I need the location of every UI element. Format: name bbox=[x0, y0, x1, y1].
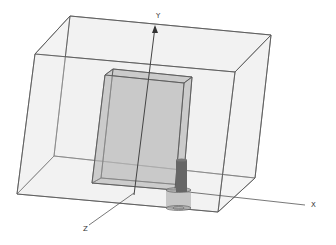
pin-top-cap bbox=[176, 159, 187, 162]
inner-box-front-face bbox=[92, 75, 184, 190]
3d-scene: X Y Z bbox=[0, 0, 336, 245]
x-axis-label: X bbox=[311, 201, 316, 209]
z-axis-label: Z bbox=[83, 225, 88, 233]
feed-pin bbox=[176, 159, 187, 193]
3d-model-viewport[interactable]: X Y Z bbox=[0, 0, 336, 245]
y-axis-label: Y bbox=[155, 12, 161, 20]
pin-body bbox=[176, 160, 187, 192]
